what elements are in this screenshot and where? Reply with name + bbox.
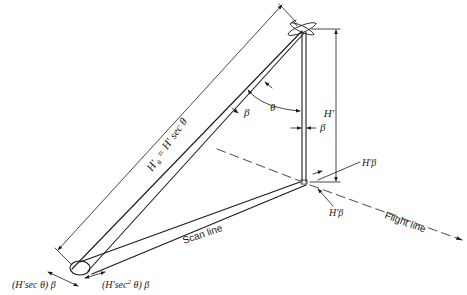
nadir-cell-across-label: H'β — [328, 207, 343, 218]
nadir-cell-arrows — [313, 162, 360, 206]
altitude-label: H' — [323, 107, 335, 119]
scan-line — [80, 182, 306, 274]
offnadir-along-label: (H'sec θ) β — [12, 279, 56, 291]
beta-nadir-label: β — [319, 121, 326, 133]
scan-line-label: Scan line — [181, 222, 224, 246]
altitude-dimension — [310, 29, 340, 182]
beta-slant-label: β — [243, 106, 250, 118]
slant-height-label: H'θ = H' sec θ — [143, 115, 192, 176]
theta-label: θ — [270, 101, 276, 113]
flight-line-label: Flight line — [383, 210, 427, 235]
nadir-beam — [301, 32, 307, 184]
offnadir-across-label: (H'sec2 θ) β — [102, 278, 149, 291]
scanner-geometry-diagram: H'θ = H' sec θ H' θ β β H'β H'β Scan lin… — [0, 0, 467, 295]
nadir-cell-along-label: H'β — [361, 157, 376, 168]
